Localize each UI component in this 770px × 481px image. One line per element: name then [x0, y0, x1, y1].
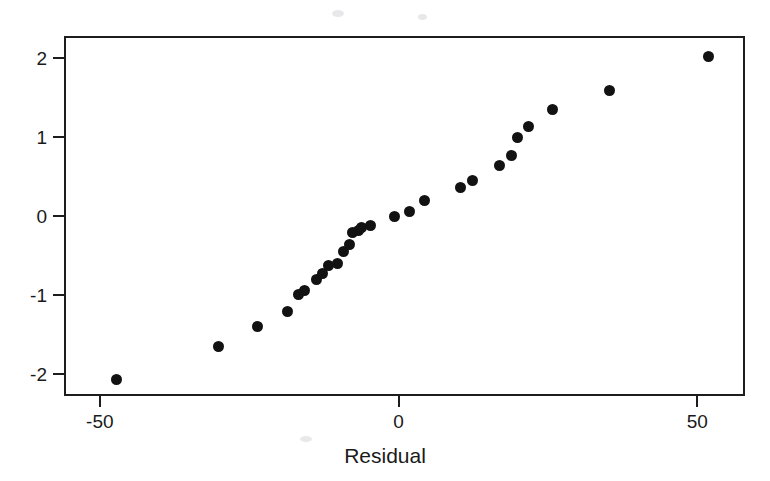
scatter-point [344, 239, 355, 250]
scatter-point [419, 195, 430, 206]
scatter-point [252, 321, 263, 332]
x-axis-tick-label: 50 [687, 411, 708, 433]
scatter-point [494, 160, 505, 171]
scatter-point [365, 220, 376, 231]
scatter-point [389, 211, 400, 222]
scatter-point [512, 132, 523, 143]
x-axis-tick-label: 0 [393, 411, 404, 433]
y-axis-tick-mark [53, 136, 64, 138]
x-axis-tick-label: -50 [86, 411, 113, 433]
y-axis-tick-label: -1 [30, 285, 47, 307]
x-axis-tick-mark [99, 396, 101, 407]
x-axis-tick-mark [398, 396, 400, 407]
scan-speckle [332, 10, 344, 17]
y-axis-tick-label: -2 [30, 364, 47, 386]
chart-title [0, 0, 770, 7]
y-axis-tick-label: 1 [36, 127, 47, 149]
x-axis-label: Residual [0, 444, 770, 468]
scatter-point [299, 285, 310, 296]
y-axis-tick-mark [53, 373, 64, 375]
scan-speckle [300, 436, 312, 442]
scatter-point [455, 182, 466, 193]
scatter-point [213, 341, 224, 352]
scan-speckle [418, 14, 427, 20]
y-axis-tick-label: 2 [36, 48, 47, 70]
scatter-point [703, 51, 714, 62]
y-axis-tick-mark [53, 57, 64, 59]
y-axis-tick-label: 0 [36, 206, 47, 228]
scatter-point [506, 150, 517, 161]
scatter-point [467, 175, 478, 186]
scatter-point [523, 121, 534, 132]
x-axis-tick-mark [696, 396, 698, 407]
scatter-point [604, 85, 615, 96]
y-axis-tick-mark [53, 294, 64, 296]
y-axis-tick-mark [53, 215, 64, 217]
scatter-point [332, 258, 343, 269]
scatter-point [404, 206, 415, 217]
scatter-point [547, 104, 558, 115]
scatter-point [282, 306, 293, 317]
plot-frame [64, 36, 745, 396]
scatter-point [111, 374, 122, 385]
chart-screenshot: 210-1-2 -50050 Residual [0, 0, 770, 481]
